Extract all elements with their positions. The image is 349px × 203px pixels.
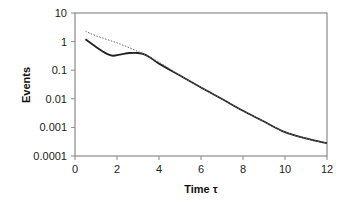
events-over-time-chart: 1010.10.010.0010.0001 024681012 Events T…: [0, 0, 349, 203]
y-tick-label: 10: [55, 7, 67, 19]
y-tick-label: 0.1: [52, 64, 67, 76]
x-tick-label: 10: [279, 163, 291, 175]
x-tick-label: 4: [156, 163, 162, 175]
series-solid-line: [86, 39, 328, 143]
y-tick-label: 1: [61, 36, 67, 48]
y-tick-label: 0.01: [46, 93, 67, 105]
x-tick-label: 0: [72, 163, 78, 175]
x-tick-label: 6: [198, 163, 204, 175]
y-axis: 1010.10.010.0010.0001: [33, 7, 75, 162]
x-tick-label: 8: [240, 163, 246, 175]
x-axis-title: Time τ: [184, 183, 218, 195]
y-tick-label: 0.001: [39, 121, 67, 133]
series-dotted-line: [86, 31, 328, 143]
x-tick-label: 2: [114, 163, 120, 175]
x-axis: 024681012: [72, 156, 333, 175]
x-tick-label: 12: [321, 163, 333, 175]
y-tick-label: 0.0001: [33, 150, 67, 162]
series-layer: [86, 31, 328, 143]
y-axis-title: Events: [20, 67, 32, 103]
